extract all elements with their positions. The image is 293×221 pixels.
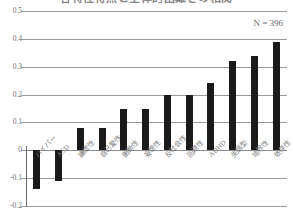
bar	[229, 61, 236, 150]
bar	[164, 95, 171, 151]
y-axis-tick-label: 0.4	[13, 35, 22, 43]
y-axis-tick-label: 0.2	[13, 91, 22, 99]
gridline	[26, 39, 287, 40]
bar	[186, 95, 193, 151]
y-axis-tick-label: 0.3	[13, 63, 22, 71]
y-axis-tick-label: -0.2	[10, 202, 22, 210]
y-axis-line	[26, 146, 27, 206]
gridline	[26, 178, 287, 179]
gridline	[26, 122, 287, 123]
bar	[207, 83, 214, 150]
bar	[120, 109, 127, 151]
bar	[251, 56, 258, 151]
gridline	[26, 67, 287, 68]
gridline	[26, 95, 287, 96]
bar	[273, 42, 280, 151]
y-axis-tick-label: -0.1	[10, 174, 22, 182]
y-axis-tick-label: 0.1	[13, 119, 22, 127]
y-axis-tick-label: 0.5	[13, 7, 22, 15]
gridline	[26, 11, 287, 12]
y-axis-tick-label: 0	[18, 147, 22, 155]
bar-chart: 各特性得点と全体的困難さの相関 N = 396 0.50.40.30.20.10…	[0, 0, 293, 221]
gridline	[26, 206, 287, 207]
chart-title: 各特性得点と全体的困難さの相関	[0, 0, 293, 4]
bar	[142, 109, 149, 151]
plot-area: 0.50.40.30.20.10-0.1-0.2ハイパーASD謙虚性自己愛性衝動…	[26, 11, 287, 206]
